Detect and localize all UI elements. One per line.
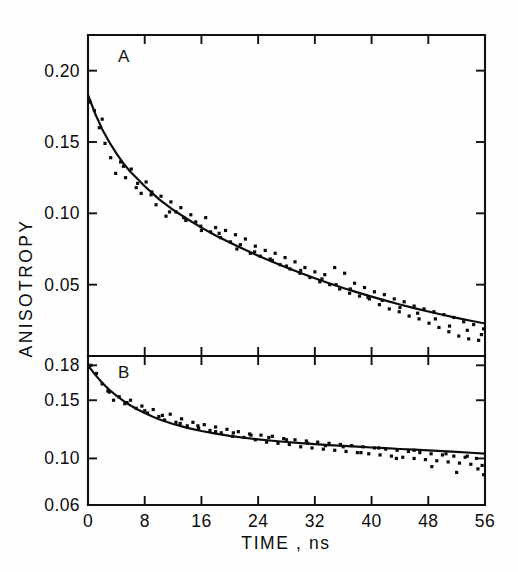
panel-a-data-point [239,243,242,246]
panel-a-data-point [93,109,96,112]
panel-b-data-point [174,421,177,424]
panel-a-data-point [194,220,197,223]
panel-b-data-point [265,441,268,444]
panel-b-data-point [108,390,111,393]
panel-a-data-point [264,249,267,252]
panel-b-data-point [333,449,336,452]
panel-b-data-point [407,450,410,453]
panel-b-data-point [129,399,132,402]
panel-b-data-point [203,423,206,426]
panel-b-data-point [413,457,416,460]
panel-b-data-point [481,464,484,467]
panel-a-data-point [174,210,177,213]
panel-a-data-point [200,229,203,232]
x-tick-label: 24 [248,511,268,531]
panel-b-data-point [441,453,444,456]
panel-b-data-point [344,450,347,453]
panel-b-data-point [395,449,398,452]
panel-b-data-point [249,434,252,437]
panel-b-data-point [390,455,393,458]
panel-a-data-point [140,192,143,195]
panel-b-data-point [327,442,330,445]
panel-b-data-point [469,463,472,466]
panel-a-data-point [477,339,480,342]
panel-b-data-point [466,455,469,458]
panel-b-data-point [413,449,416,452]
x-tick-label: 16 [191,511,211,531]
panel-b-y-tick-label: 0.15 [44,390,80,410]
panel-b-data-point [169,413,172,416]
panel-b-data-point [214,430,217,433]
panel-a-data-point [353,282,356,285]
panel-a-data-point [298,272,301,275]
panel-a-data-point [168,210,171,213]
panel-b-data-point [444,452,447,455]
panel-a-data-point [462,320,465,323]
panel-a-data-point [219,236,222,239]
panel-b-data-point [350,444,353,447]
panel-b-data-point [157,415,160,418]
panel-a-data-point [373,290,376,293]
panel-a-data-point [403,300,406,303]
panel-a-data-point [124,176,127,179]
panel-a-data-point [378,303,381,306]
panel-a-data-point [366,296,369,299]
x-tick-label: 8 [140,511,150,531]
panel-a-data-point [343,272,346,275]
anisotropy-decay-figure: A 0.200.150.100.05 B 0.180.150.100.06 08… [0,0,518,572]
panel-a-data-point [135,186,138,189]
panel-a-data-point [432,310,435,313]
panel-b-data-point [377,446,380,449]
panel-a-data-point [234,233,237,236]
y-axis-title: ANISOTROPY [16,219,36,358]
panel-b-right-ticks [476,365,485,505]
panel-a-y-tick-label: 0.10 [44,203,80,223]
panel-b-data-point [163,418,166,421]
panel-b-data-point [285,438,288,441]
panel-b-data-point [191,421,194,424]
panel-a-data-point [218,232,221,235]
panel-a-data-point [363,286,366,289]
x-tick-label: 0 [83,511,93,531]
panel-a-data-point [349,287,352,290]
panel-b-y-tick-label: 0.10 [44,448,80,468]
panel-b-data-point [395,457,398,460]
panel-b-data-point [288,443,291,446]
panel-b-data-point [208,429,211,432]
panel-a-data-point [448,324,451,327]
panel-b-data-point [282,437,285,440]
panel-a-right-ticks [476,71,485,285]
panel-a-data-point [136,182,139,185]
panel-a-data-point [209,230,212,233]
panel-a-data-point [249,252,252,255]
panel-a-data-point [182,216,185,219]
panel-a-data-point [303,266,306,269]
panel-a-data-point [119,160,122,163]
panel-a-data-point [413,304,416,307]
panel-b-data-point [299,445,302,448]
panel-b-data-point [339,443,342,446]
panel-b-data-point [146,411,149,414]
panel-a-data-point [189,213,192,216]
plot-canvas: A 0.200.150.100.05 B 0.180.150.100.06 08… [0,0,518,572]
panel-a-data-point [416,312,419,315]
panel-b-data-point [118,395,121,398]
panel-a-data-point [229,240,232,243]
panel-a-data-point [381,299,384,302]
panel-a-data-point [482,327,485,330]
panel-a-data-point [447,330,450,333]
panel-b-data-point [401,456,404,459]
panel-a-data-point [480,333,483,336]
panel-b-data-point [324,444,327,447]
panel-a-data-point [224,229,227,232]
panel-a-data-point [145,180,148,183]
panel-a-data-point [149,193,152,196]
panel-b-data-point [359,451,362,454]
panel-b-data-point [418,451,421,454]
panel-b-data-point [125,401,128,404]
panel-a-data-point [259,255,262,258]
panel-a-data-point [398,306,401,309]
panel-b-data-point [342,445,345,448]
panel-a-data-point [101,118,104,121]
panel-a-data-point [103,142,106,145]
